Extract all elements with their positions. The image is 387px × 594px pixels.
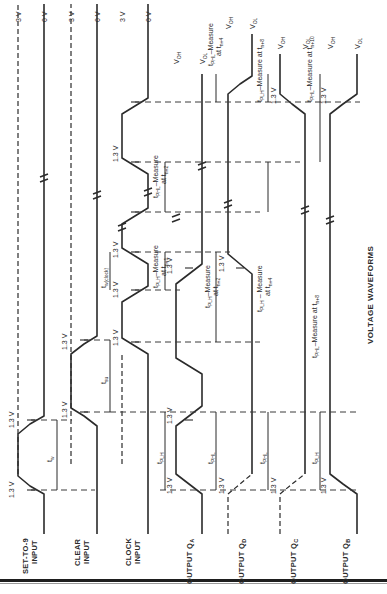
qc-trace-dashed [280,474,305,534]
qd-tphl-measure-label: tPHL–Measure [207,23,216,66]
qd-tphl-measure-at: at tn+4 [215,38,224,56]
clock-0v-label: 0 V [145,11,152,22]
set-to-9-0v-label: 0 V [41,11,48,22]
qc-label: OUTPUT QC [289,539,299,584]
clear-0v-label: 0 V [94,11,101,22]
rotated-waveform-group: SET-TO-9 INPUT CLEAR INPUT CLOCK INPUT O… [8,4,375,584]
threshold-label: 1.3 V [112,329,119,346]
qc-tplh-measure-at: at tn+4 [264,278,273,296]
set-to-9-label-2: INPUT [30,540,39,564]
qb-trace [330,54,357,534]
qa-voh-label: VOH [173,51,182,64]
threshold-label: 1.3 V [218,255,225,272]
clock-3v-label: 3 V [119,11,126,22]
signal-labels: SET-TO-9 INPUT CLEAR INPUT CLOCK INPUT O… [21,538,351,584]
qc-tphl-label: tPHL [259,452,268,464]
qc-voh-label: VOH [277,36,286,49]
threshold-label: 1.3 V [112,241,119,258]
tsu-label: tsu [100,377,109,384]
threshold-label: 1.3 V [166,407,173,424]
threshold-label: 1.3 V [320,477,327,494]
qd-tphl-label: tPHL [207,452,216,464]
qd-label: OUTPUT QD [237,539,247,584]
qc-waveform [280,54,309,534]
clock-label-2: INPUT [133,540,142,564]
qd-voh-label: VOH [225,16,234,29]
voltage-waveforms-diagram: SET-TO-9 INPUT CLEAR INPUT CLOCK INPUT O… [0,0,387,594]
set-to-9-trace [18,4,44,534]
threshold-label: 1.3 V [270,477,277,494]
qb-voh-label: VOH [327,36,336,49]
qb-tplh-label: tPLH [311,452,320,464]
clock-waveform [118,4,152,534]
qd-waveform [224,34,252,534]
qa-trace [176,74,202,534]
threshold-labels: 1.3 V 1.3 V 1.3 V 1.3 V 1.3 V 1.3 V 1.3 … [8,87,327,498]
qc-tplh8-label: tPLH–Measure at tn+8 [256,39,265,102]
threshold-label: 1.3 V [270,87,277,104]
threshold-label: 1.3 V [218,477,225,494]
threshold-label: 1.3 V [8,411,15,428]
threshold-label: 1.3 V [166,477,173,494]
threshold-label: 1.3 V [112,281,119,298]
clock-label: CLOCK [124,538,133,566]
clock-trace [122,4,148,534]
qa-label: OUTPUT QA [185,539,195,584]
qb-vol-label: VOL [354,37,363,49]
qd-vol-label: VOL [249,17,258,29]
threshold-label: 1.3 V [320,87,327,104]
threshold-label: 1.3 V [8,481,15,498]
qd-trace [228,34,252,474]
qa-tphl-measure-at: at tn+2 [160,166,169,184]
set-to-9-label: SET-TO-9 [21,538,30,574]
qa-tplh-label: tPLH [156,452,165,464]
qb-waveform [326,54,357,534]
clear-trace [71,4,97,534]
threshold-label: 1.3 V [112,145,119,162]
clear-3v-label: 3 V [68,11,75,22]
clear-label-2: INPUT [82,540,91,564]
tw-clock-label: tw(clock) [100,267,109,288]
qd-trace-dashed [228,474,252,534]
threshold-label: 1.3 V [61,333,68,350]
qb-tphl-measure-label: tPHL–Measure at tn+8 [311,295,320,358]
threshold-label: 1.3 V [61,401,68,418]
tw-set-label: tw [46,456,55,462]
qd-tplh-measure-at: at tn+2 [212,278,221,296]
qb-label: OUTPUT QB [341,539,351,584]
qc-trace [280,54,305,474]
clear-label: CLEAR [73,538,82,566]
figure-title: VOLTAGE WAVEFORMS [366,245,375,344]
qa-waveform [172,74,206,534]
set-to-9-3v-label: 3 V [15,11,22,22]
break-mark [172,214,180,222]
